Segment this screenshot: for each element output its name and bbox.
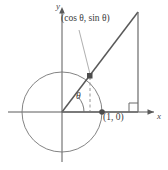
- unit-circle-figure: (cos θ, sin θ) (1, 0) θ y x: [0, 0, 168, 170]
- figure-canvas: [0, 0, 168, 170]
- right-angle-marker: [129, 103, 138, 112]
- label-axis-y: y: [56, 2, 60, 11]
- y-axis: [59, 7, 65, 162]
- label-one-zero: (1, 0): [103, 113, 124, 123]
- label-cos-sin: (cos θ, sin θ): [61, 14, 110, 24]
- leader-line-cos-sin: [79, 30, 90, 74]
- hypotenuse-ray: [62, 12, 138, 112]
- marker-point-on-circle: [87, 73, 93, 79]
- x-axis-arrowhead: [148, 109, 155, 115]
- label-axis-x: x: [157, 112, 161, 121]
- label-theta-angle: θ: [76, 92, 81, 102]
